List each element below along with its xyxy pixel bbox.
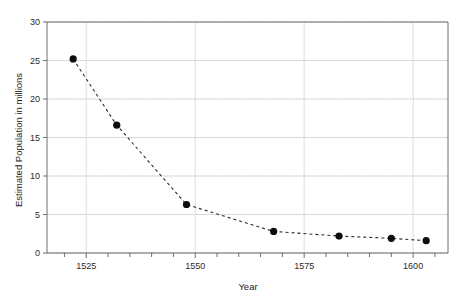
population-decline-chart: 0510152025301525155015751600 Year Estima… [0,0,463,300]
x-axis-title: Year [238,281,257,292]
y-axis-title: Estimated Population in millions [13,73,24,207]
y-axis-tick-label: 10 [30,171,40,181]
y-axis-tick-label: 0 [35,248,40,258]
gridlines [47,22,448,253]
data-point [113,122,120,129]
y-axis-tick-label: 15 [30,133,40,143]
x-axis-tick-label: 1550 [185,261,205,271]
data-point [335,232,342,239]
series-line-population [73,59,426,241]
y-axis-tick-label: 20 [30,94,40,104]
y-axis-tick-label: 5 [35,210,40,220]
data-series [70,55,430,244]
axis-tick-labels: 0510152025301525155015751600 [30,17,423,271]
y-axis-tick-label: 30 [30,17,40,27]
data-point [70,55,77,62]
x-axis-tick-label: 1525 [76,261,96,271]
x-axis-tick-label: 1600 [403,261,423,271]
data-point [388,235,395,242]
data-point [183,201,190,208]
chart-canvas: 0510152025301525155015751600 Year Estima… [0,0,463,300]
data-point [270,228,277,235]
y-axis-tick-label: 25 [30,56,40,66]
x-axis-tick-label: 1575 [294,261,314,271]
data-point [423,237,430,244]
axis-ticks [43,22,435,258]
